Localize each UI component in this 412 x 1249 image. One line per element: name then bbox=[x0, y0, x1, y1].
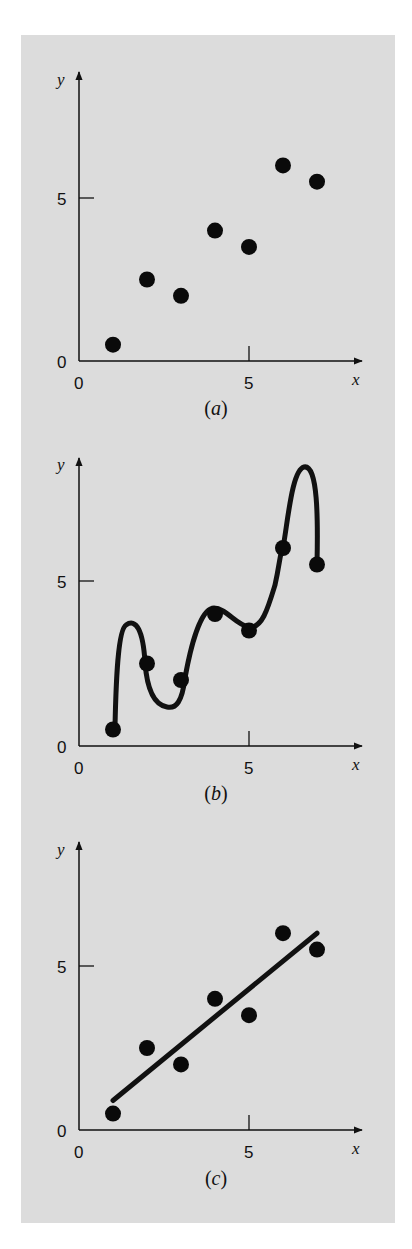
x-axis-label: x bbox=[351, 370, 360, 389]
figure-svg: y x 5 0 0 5 (a) y x 5 0 0 5 (b) y x 5 0 … bbox=[0, 0, 412, 1249]
x-axis-label: x bbox=[351, 755, 360, 774]
data-point bbox=[207, 223, 223, 239]
data-point bbox=[309, 174, 325, 190]
data-point bbox=[173, 672, 189, 688]
data-point bbox=[275, 157, 291, 173]
x-tick-label-0: 0 bbox=[74, 374, 83, 393]
data-points bbox=[105, 157, 325, 352]
data-point bbox=[241, 623, 257, 639]
y-axis-label: y bbox=[55, 455, 65, 474]
y-axis-label: y bbox=[55, 70, 65, 89]
data-point bbox=[241, 239, 257, 255]
x-tick-label-0: 0 bbox=[74, 759, 83, 778]
x-tick-label-5: 5 bbox=[244, 1143, 253, 1162]
data-point bbox=[309, 942, 325, 958]
x-tick-label-5: 5 bbox=[244, 759, 253, 778]
interpolating-curve bbox=[115, 467, 317, 727]
x-tick-label-0: 0 bbox=[74, 1143, 83, 1162]
y-tick-label-0: 0 bbox=[57, 1122, 66, 1141]
caption-a: (a) bbox=[204, 397, 227, 420]
chart-b: y x 5 0 0 5 (b) bbox=[55, 455, 362, 805]
y-tick-label-5: 5 bbox=[57, 573, 66, 592]
data-point bbox=[275, 540, 291, 556]
data-point bbox=[139, 656, 155, 672]
data-point bbox=[139, 1040, 155, 1056]
data-point bbox=[275, 925, 291, 941]
y-tick-label-0: 0 bbox=[57, 353, 66, 372]
y-tick-label-5: 5 bbox=[57, 190, 66, 209]
data-point bbox=[309, 557, 325, 573]
chart-a: y x 5 0 0 5 (a) bbox=[55, 70, 362, 420]
y-axis-label: y bbox=[55, 840, 65, 859]
chart-c: y x 5 0 0 5 (c) bbox=[55, 840, 362, 1190]
data-point bbox=[173, 1056, 189, 1072]
data-point bbox=[105, 722, 121, 738]
data-point bbox=[105, 337, 121, 353]
data-point bbox=[139, 272, 155, 288]
y-tick-label-0: 0 bbox=[57, 738, 66, 757]
x-axis-label: x bbox=[351, 1139, 360, 1158]
caption-b: (b) bbox=[204, 782, 227, 805]
x-tick-label-5: 5 bbox=[244, 374, 253, 393]
fit-line bbox=[113, 933, 317, 1100]
y-tick-label-5: 5 bbox=[57, 958, 66, 977]
data-point bbox=[173, 288, 189, 304]
data-point bbox=[241, 1007, 257, 1023]
data-point bbox=[105, 1106, 121, 1122]
data-point bbox=[207, 606, 223, 622]
data-points bbox=[105, 540, 325, 738]
data-point bbox=[207, 991, 223, 1007]
caption-c: (c) bbox=[205, 1167, 227, 1190]
